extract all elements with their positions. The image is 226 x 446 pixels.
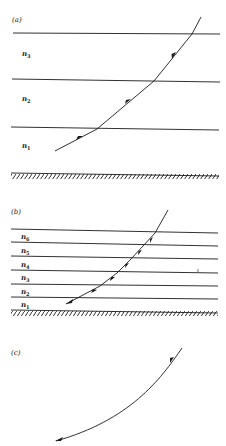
layer-label-n1: n1 <box>22 141 31 151</box>
layer-label-n2: n2 <box>21 287 30 297</box>
layer-label-n1: n1 <box>21 300 30 310</box>
layer-boundary-b5 <box>11 284 218 286</box>
layer-label-n3: n3 <box>22 49 31 59</box>
layer-label-n6: n6 <box>21 232 30 242</box>
arrow-icon <box>172 52 177 59</box>
layer-label-n3: n3 <box>21 273 30 283</box>
layer-boundary-b6 <box>11 297 218 299</box>
panel-c: (c) <box>11 348 182 441</box>
ray-path-a <box>55 17 201 151</box>
layer-boundary-b1 <box>11 229 218 233</box>
panel-b: (b) n6 n5 n4 n3 n2 n1 <box>11 208 218 316</box>
layer-boundary-b2 <box>11 242 218 246</box>
layer-boundary-b3 <box>11 256 218 259</box>
panel-a-label: (a) <box>12 16 22 24</box>
layer-boundary-a2 <box>12 79 220 82</box>
arrow-icon <box>55 437 63 441</box>
arrow-icon <box>91 289 97 293</box>
arrow-icon <box>125 263 129 268</box>
ground-hatch-b <box>11 311 218 316</box>
layer-boundary-b4 <box>11 270 218 273</box>
ray-path-c <box>56 348 182 441</box>
arrow-icon <box>66 299 73 304</box>
layer-label-n5: n5 <box>21 246 30 256</box>
layer-boundary-a3 <box>11 127 219 130</box>
panel-b-label: (b) <box>11 208 21 216</box>
layer-label-n4: n4 <box>21 260 30 270</box>
panel-a: (a) n3 n2 n1 <box>11 16 220 179</box>
layer-label-n2: n2 <box>22 94 31 104</box>
ground-hatch-a <box>11 174 219 179</box>
refraction-diagram: (a) n3 n2 n1 (b) n6 n5 n4 n3 n2 n1 <box>0 0 226 446</box>
panel-c-label: (c) <box>11 349 21 357</box>
layer-boundary-a1 <box>13 33 220 34</box>
